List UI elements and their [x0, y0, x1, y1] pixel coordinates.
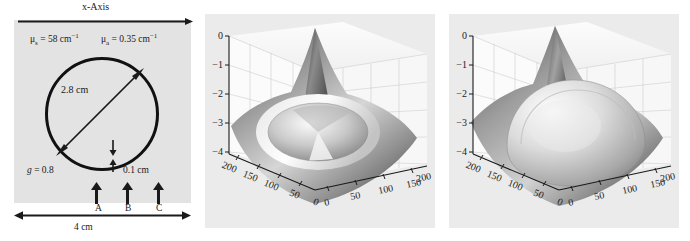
- surface-plot-dome-svg: 0 −1 −2 −3 −4 200 150 100 50 0 0 50 100 …: [449, 14, 679, 228]
- svg-text:−4: −4: [212, 146, 223, 157]
- mu-a-exponent: −1: [150, 32, 157, 40]
- svg-text:200: 200: [464, 159, 482, 175]
- surface-plot-crater-svg: 0 −1 −2 −3 −4 200 150 100 50 0 0 50 100 …: [205, 14, 435, 228]
- svg-text:150: 150: [485, 168, 503, 184]
- mu-s-label: μs = 58 cm−1: [30, 33, 79, 47]
- x-axis-title: x-Axis: [82, 2, 109, 12]
- svg-text:200: 200: [220, 159, 238, 175]
- svg-text:−2: −2: [456, 88, 467, 99]
- surface-plot-dome-panel: 0 −1 −2 −3 −4 200 150 100 50 0 0 50 100 …: [449, 14, 679, 228]
- z-axis-tick-labels: 0 −1 −2 −3 −4: [456, 30, 467, 157]
- diameter-arrow-icon: [44, 56, 156, 168]
- svg-text:100: 100: [621, 182, 638, 196]
- anisotropy-label: g = 0.8: [27, 166, 54, 176]
- z-axis-tick-labels: 0 −1 −2 −3 −4: [212, 30, 223, 157]
- svg-text:50: 50: [349, 189, 361, 202]
- svg-text:−4: −4: [456, 146, 467, 157]
- svg-text:150: 150: [241, 168, 259, 184]
- svg-text:200: 200: [415, 170, 432, 184]
- geometry-diagram-panel: x-Axis μs = 58 cm−1 μa = 0.35 cm−1 2.8 c…: [0, 0, 205, 241]
- svg-text:100: 100: [377, 182, 394, 196]
- mu-s-value: = 58 cm: [38, 34, 72, 44]
- svg-text:50: 50: [593, 189, 605, 202]
- svg-text:200: 200: [659, 170, 676, 184]
- svg-text:−2: −2: [212, 88, 223, 99]
- x-axis-arrow-icon: [18, 18, 193, 25]
- svg-text:−3: −3: [212, 117, 223, 128]
- mu-a-label: μa = 0.35 cm−1: [101, 33, 157, 47]
- diameter-label: 2.8 cm: [61, 85, 88, 95]
- figure-container: x-Axis μs = 58 cm−1 μa = 0.35 cm−1 2.8 c…: [0, 0, 690, 241]
- width-arrow-icon: [14, 211, 191, 220]
- gap-distance-label: 0.1 cm: [123, 166, 149, 176]
- svg-text:−3: −3: [456, 117, 467, 128]
- surface-plot-crater-panel: 0 −1 −2 −3 −4 200 150 100 50 0 0 50 100 …: [205, 14, 435, 228]
- svg-text:0: 0: [218, 30, 223, 41]
- svg-text:−1: −1: [212, 59, 223, 70]
- mu-a-value: = 0.35 cm: [109, 34, 150, 44]
- mu-s-exponent: −1: [71, 32, 78, 40]
- source-arrows-icon: [86, 182, 178, 204]
- svg-text:−1: −1: [456, 59, 467, 70]
- total-width-label: 4 cm: [74, 223, 93, 233]
- g-value: = 0.8: [32, 165, 54, 175]
- svg-text:0: 0: [462, 30, 467, 41]
